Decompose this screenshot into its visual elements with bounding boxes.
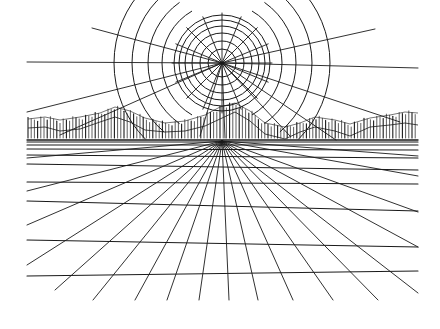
line-art-illustration: Sun over mountains with perspective grid xyxy=(0,0,440,329)
